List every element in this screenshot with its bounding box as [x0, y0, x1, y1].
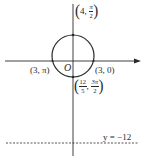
point-left — [51, 60, 53, 62]
bottom-r-den: 5 — [81, 87, 84, 94]
paren-close: ) — [99, 78, 104, 95]
point-right — [92, 60, 94, 62]
bottom-theta-fraction: 3π2 — [91, 79, 99, 94]
top-theta-den: 2 — [90, 12, 93, 19]
bottom-theta-num: 3π — [91, 79, 99, 87]
polar-diagram: (4, π2) (3, π) O (3, 0) (125, 3π2) y = −… — [0, 0, 148, 162]
point-top — [72, 34, 75, 37]
bottom-r-num: 12 — [79, 79, 87, 87]
label-point-bottom: (125, 3π2) — [74, 79, 104, 94]
paren-open: ( — [75, 3, 80, 20]
arrowhead-icon — [134, 59, 141, 64]
origin-label: O — [64, 63, 71, 73]
bottom-r-fraction: 125 — [79, 79, 87, 94]
label-point-top: (4, π2) — [75, 4, 98, 19]
comma: , — [87, 81, 89, 91]
bottom-theta-den: 2 — [93, 87, 96, 94]
directrix-label: y = −12 — [103, 133, 131, 142]
label-point-right: (3, 0) — [95, 66, 115, 75]
paren-close: ) — [93, 3, 98, 20]
label-point-left: (3, π) — [30, 66, 50, 75]
comma: , — [85, 6, 87, 16]
paren-open: ( — [74, 78, 79, 95]
